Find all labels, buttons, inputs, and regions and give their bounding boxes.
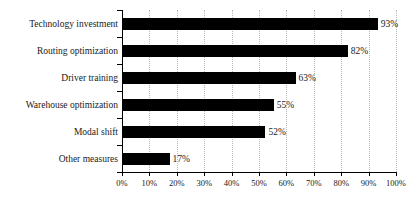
bar-value-label: 17% (173, 153, 190, 165)
x-axis-tick (259, 172, 260, 176)
x-axis-tick-label: 100% (386, 178, 406, 189)
y-axis-tick (117, 64, 122, 65)
x-axis-tick (314, 172, 315, 176)
x-axis-tick (341, 172, 342, 176)
x-axis-tick-label: 90% (361, 178, 377, 189)
x-axis-tick-label: 40% (224, 178, 240, 189)
x-axis-tick (396, 172, 397, 176)
y-axis-tick (117, 91, 122, 92)
bar-row: Other measures17% (0, 145, 418, 172)
category-label: Warehouse optimization (6, 99, 118, 111)
category-label: Modal shift (6, 126, 118, 138)
bar[interactable] (123, 18, 378, 30)
y-axis-tick (117, 10, 122, 11)
y-axis-tick (117, 145, 122, 146)
x-axis-tick-label: 30% (196, 178, 212, 189)
bar-row: Technology investment93% (0, 10, 418, 37)
x-axis-tick-label: 70% (306, 178, 322, 189)
bar-row: Routing optimization82% (0, 37, 418, 64)
bar-value-label: 93% (381, 18, 398, 30)
x-axis-tick (177, 172, 178, 176)
bar-value-label: 82% (351, 45, 368, 57)
bar-row: Modal shift52% (0, 118, 418, 145)
bar-chart: Technology investment93%Routing optimiza… (0, 0, 418, 201)
x-axis-tick (204, 172, 205, 176)
bar[interactable] (123, 72, 296, 84)
bar[interactable] (123, 153, 170, 165)
y-axis-tick (117, 37, 122, 38)
x-axis-tick (232, 172, 233, 176)
category-label: Other measures (6, 153, 118, 165)
bar[interactable] (123, 45, 348, 57)
x-axis-tick-label: 0% (116, 178, 127, 189)
bar-row: Driver training63% (0, 64, 418, 91)
bar[interactable] (123, 99, 274, 111)
bar-value-label: 52% (268, 126, 285, 138)
y-axis-tick (117, 118, 122, 119)
bar[interactable] (123, 126, 265, 138)
x-axis-tick-label: 20% (169, 178, 185, 189)
category-label: Routing optimization (6, 45, 118, 57)
x-axis-tick (369, 172, 370, 176)
x-axis-tick (149, 172, 150, 176)
bar-value-label: 55% (277, 99, 294, 111)
category-label: Driver training (6, 72, 118, 84)
x-axis-tick-label: 80% (333, 178, 349, 189)
x-axis-tick-label: 50% (251, 178, 267, 189)
bar-row: Warehouse optimization55% (0, 91, 418, 118)
x-axis-tick-label: 60% (279, 178, 295, 189)
category-label: Technology investment (6, 18, 118, 30)
bar-value-label: 63% (299, 72, 316, 84)
x-axis-tick (286, 172, 287, 176)
x-axis-tick (122, 172, 123, 176)
x-axis-tick-label: 10% (142, 178, 158, 189)
